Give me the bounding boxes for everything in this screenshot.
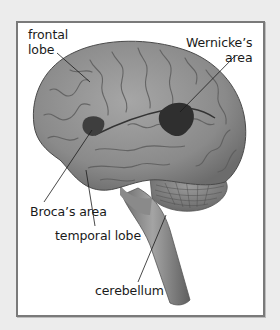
label-line: frontal <box>28 27 68 42</box>
label-wernickes-area: Wernicke’s area <box>186 35 252 65</box>
label-line: lobe <box>28 42 68 57</box>
label-frontal-lobe: frontal lobe <box>28 27 68 57</box>
label-brocas-area: Broca’s area <box>30 204 107 219</box>
label-line: temporal lobe <box>55 228 141 243</box>
label-temporal-lobe: temporal lobe <box>55 228 141 243</box>
label-line: Wernicke’s <box>186 35 252 50</box>
label-line: area <box>186 50 252 65</box>
label-line: cerebellum <box>95 283 164 298</box>
label-line: Broca’s area <box>30 204 107 219</box>
label-cerebellum: cerebellum <box>95 283 164 298</box>
